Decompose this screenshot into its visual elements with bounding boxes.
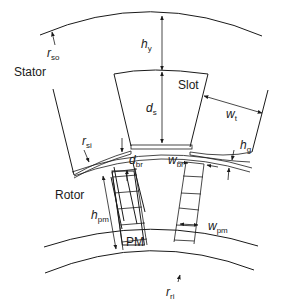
slot-left-edge [114, 74, 131, 146]
stator-outer-arc [40, 12, 262, 36]
label-hy: hy [141, 37, 152, 53]
label-rso: rso [47, 46, 60, 62]
stator-bore-arc [74, 151, 131, 178]
dim-hg-bottom [228, 168, 229, 180]
bore-joins [131, 151, 190, 155]
label-ds: ds [146, 101, 157, 117]
dim-rsi [84, 150, 89, 162]
dim-rso [52, 32, 55, 45]
machine-geometry-diagram: Stator Rotor Slot PM rso hy ds wt rsi hg… [0, 0, 294, 306]
label-dbr: dbr [129, 153, 143, 169]
label-hg: hg [240, 138, 251, 154]
label-hpm: hpm [91, 208, 109, 224]
label-slot: Slot [178, 78, 199, 92]
label-rsi: rsi [82, 134, 92, 150]
stator-left-edge [53, 89, 74, 175]
label-pm: PM [126, 235, 144, 249]
dim-rri [178, 275, 180, 282]
dim-wpm [180, 224, 198, 225]
dim-wbr-right [207, 165, 218, 167]
label-rotor: Rotor [55, 188, 84, 202]
stator-right-edge [252, 90, 268, 152]
label-stator: Stator [14, 65, 46, 79]
label-rri: rri [166, 285, 175, 301]
slot-wedge [131, 145, 192, 149]
label-wt: wt [226, 107, 238, 123]
magnet-left [111, 163, 145, 245]
rotor-inner-arc [45, 251, 254, 273]
label-wpm: wpm [208, 219, 228, 235]
